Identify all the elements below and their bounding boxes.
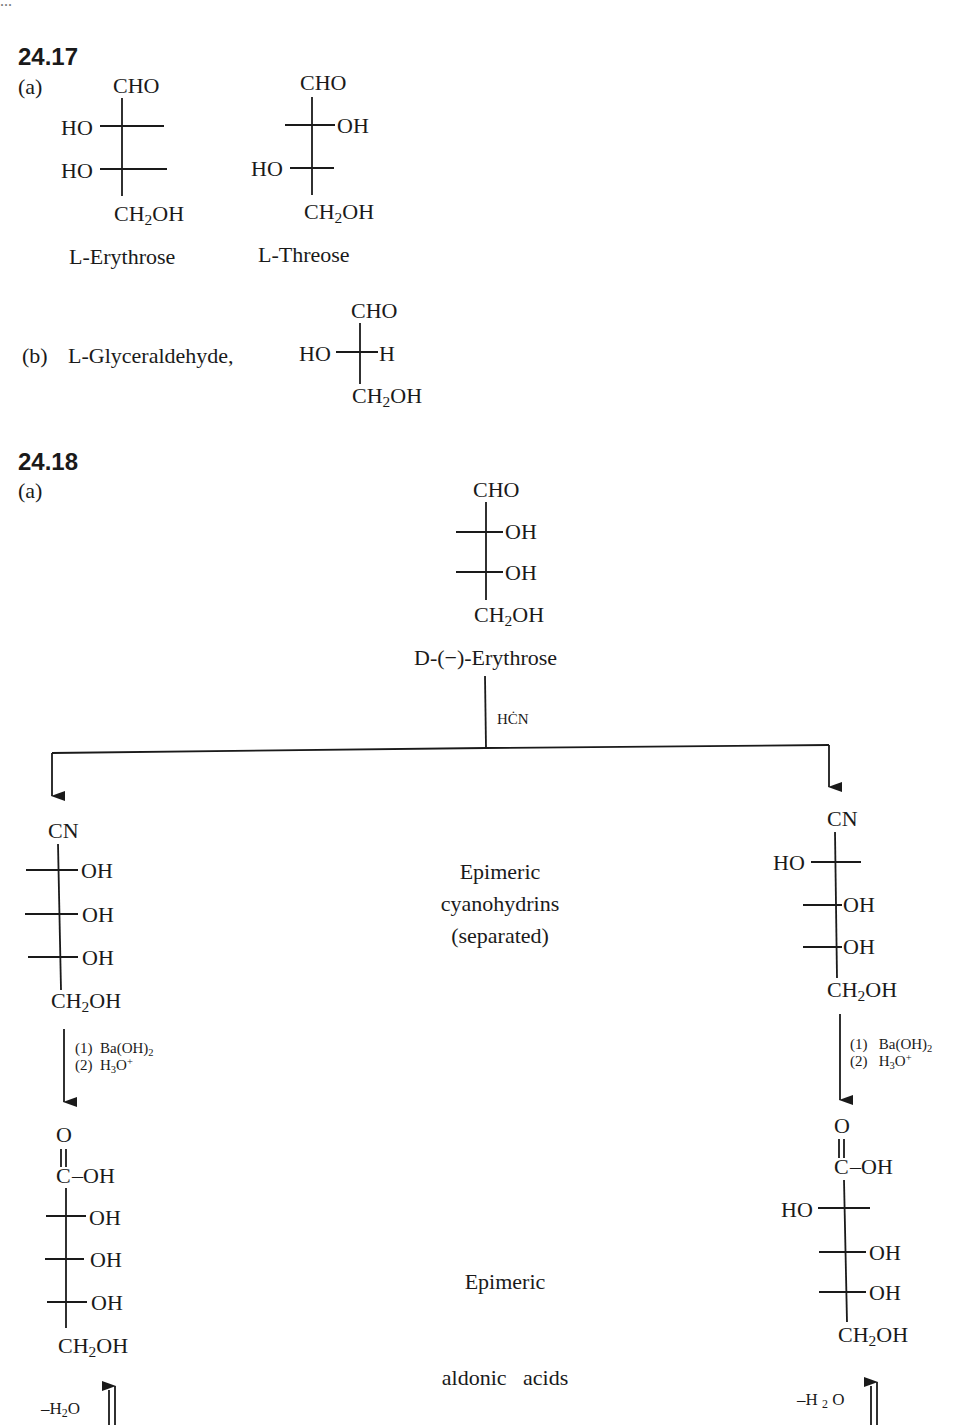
group-ho: HO (251, 158, 283, 180)
compound-name-l-erythrose: L-Erythrose (69, 246, 175, 268)
group-oh: OH (869, 1242, 901, 1264)
group-ho: HO (299, 343, 331, 365)
compound-name-d-erythrose: D-(−)-Erythrose (414, 647, 557, 669)
group-ch2oh: CH2OH (838, 1324, 908, 1346)
group-cho: CHO (300, 72, 346, 94)
group-oh: OH (843, 936, 875, 958)
part-label-b: (b) (22, 345, 48, 367)
label-epimeric-cyanohydrins: Epimeric cyanohydrins (separated) (400, 856, 600, 952)
label-dehydration-right: –H 2 O (797, 1391, 845, 1408)
group-oh: OH (81, 860, 113, 882)
group-ho: HO (773, 852, 805, 874)
group-cn: CN (48, 820, 79, 842)
label-epimeric-aldonic-acids: Epimeric aldonic acids (405, 1202, 605, 1425)
group-oh: OH (82, 947, 114, 969)
group-oh: OH (505, 562, 537, 584)
group-oh: OH (337, 115, 369, 137)
group-ch2oh: CH2OH (51, 990, 121, 1012)
group-oh: OH (82, 904, 114, 926)
reagent-hcn: HĊN (497, 712, 529, 727)
group-cho: CHO (473, 479, 519, 501)
group-carbonyl-o: O (56, 1124, 72, 1146)
group-ho: HO (61, 160, 93, 182)
group-ch2oh: CH2OH (352, 385, 422, 407)
group-cho: CHO (351, 300, 397, 322)
group-ch2oh: CH2OH (58, 1335, 128, 1357)
compound-name-l-glyceraldehyde: L-Glyceraldehyde, (68, 345, 234, 367)
group-cho: CHO (113, 75, 159, 97)
part-label-a: (a) (18, 480, 42, 502)
problem-number-24-17: 24.17 (18, 45, 78, 69)
group-ho: HO (781, 1199, 813, 1221)
cutoff-text: ... (0, 0, 12, 10)
group-h: H (379, 343, 395, 365)
group-c-oh: –OH (850, 1156, 893, 1178)
group-ch2oh: CH2OH (474, 604, 544, 626)
group-carbonyl-o: O (834, 1115, 850, 1137)
group-oh: OH (91, 1292, 123, 1314)
group-oh: OH (505, 521, 537, 543)
problem-number-24-18: 24.18 (18, 450, 78, 474)
group-ho: HO (61, 117, 93, 139)
conditions-hydrolysis-left: (1) Ba(OH)2 (2) H3O+ (75, 1040, 154, 1074)
group-ch2oh: CH2OH (304, 201, 374, 223)
label-dehydration-left: –H2O (41, 1400, 80, 1417)
group-oh: OH (869, 1282, 901, 1304)
group-oh: OH (843, 894, 875, 916)
group-c: C (56, 1165, 71, 1187)
group-oh: OH (90, 1249, 122, 1271)
group-cn: CN (827, 808, 858, 830)
compound-name-l-threose: L-Threose (258, 244, 350, 266)
group-oh: OH (89, 1207, 121, 1229)
part-label-a: (a) (18, 76, 42, 98)
conditions-hydrolysis-right: (1) Ba(OH)2 (2) H3O+ (850, 1036, 932, 1070)
group-ch2oh: CH2OH (827, 979, 897, 1001)
group-c-oh: –OH (72, 1165, 115, 1187)
group-c: C (834, 1156, 849, 1178)
group-ch2oh: CH2OH (114, 203, 184, 225)
